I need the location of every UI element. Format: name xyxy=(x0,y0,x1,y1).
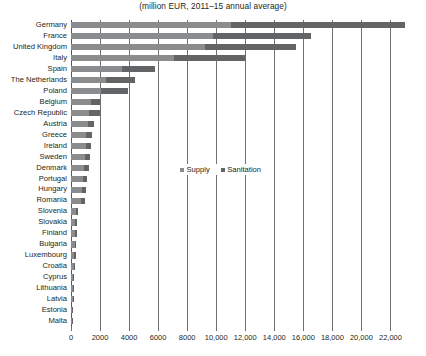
bar-segment-supply xyxy=(71,33,213,39)
bar-row xyxy=(71,20,405,31)
legend-item-sanitation[interactable]: Sanitation xyxy=(221,165,261,174)
bar-segment-sanitation xyxy=(213,33,310,39)
y-axis-category-labels: GermanyFranceUnited KingdomItalySpainThe… xyxy=(0,20,67,327)
bar-segment-sanitation xyxy=(73,285,74,291)
bar-segment-sanitation xyxy=(81,198,84,204)
bar-segment-sanitation xyxy=(82,187,86,193)
legend-label-sanitation: Sanitation xyxy=(227,165,261,174)
bar-segment-sanitation xyxy=(74,252,75,258)
bar-finland[interactable] xyxy=(71,230,77,236)
bar-belgium[interactable] xyxy=(71,99,100,105)
bar-germany[interactable] xyxy=(71,22,405,28)
bar-romania[interactable] xyxy=(71,198,85,204)
bar-row xyxy=(71,53,405,64)
bar-spain[interactable] xyxy=(71,66,155,72)
y-axis-label-ireland: Ireland xyxy=(0,141,67,152)
chart-legend: Supply Sanitation xyxy=(178,164,263,175)
bar-portugal[interactable] xyxy=(71,176,87,182)
bar-row xyxy=(71,130,405,141)
bar-row xyxy=(71,184,405,195)
bar-row xyxy=(71,283,405,294)
bar-segment-sanitation xyxy=(86,143,92,149)
bar-slovenia[interactable] xyxy=(71,208,78,214)
y-axis-label-france: France xyxy=(0,31,67,42)
bar-segment-supply xyxy=(71,198,81,204)
bar-latvia[interactable] xyxy=(71,296,73,302)
x-tick-label-20000: 20,000 xyxy=(350,333,373,342)
bar-row xyxy=(71,108,405,119)
x-tick-12000 xyxy=(245,327,246,331)
x-tick-18000 xyxy=(332,327,333,331)
y-axis-label-luxembourg: Luxembourg xyxy=(0,250,67,261)
bar-the-netherlands[interactable] xyxy=(71,77,135,83)
bar-segment-supply xyxy=(71,121,88,127)
bar-segment-sanitation xyxy=(73,296,74,302)
bar-row xyxy=(71,152,405,163)
bar-segment-sanitation xyxy=(75,241,77,247)
legend-swatch-supply-icon xyxy=(180,168,184,172)
x-tick-label-8000: 8000 xyxy=(179,333,196,342)
x-tick-14000 xyxy=(274,327,275,331)
y-axis-label-malta: Malta xyxy=(0,316,67,327)
bar-slovakia[interactable] xyxy=(71,219,77,225)
y-axis-label-greece: Greece xyxy=(0,130,67,141)
bar-malta[interactable] xyxy=(71,318,72,324)
x-tick-0 xyxy=(71,327,72,331)
bar-austria[interactable] xyxy=(71,121,94,127)
bar-france[interactable] xyxy=(71,33,311,39)
bar-row xyxy=(71,239,405,250)
x-tick-label-12000: 12,000 xyxy=(234,333,257,342)
y-axis-label-lithuania: Lithuania xyxy=(0,283,67,294)
bar-luxembourg[interactable] xyxy=(71,252,76,258)
y-axis-label-estonia: Estonia xyxy=(0,305,67,316)
y-axis-label-czech-republic: Czech Republic xyxy=(0,108,67,119)
legend-swatch-sanitation-icon xyxy=(221,168,225,172)
bar-italy[interactable] xyxy=(71,55,245,61)
bar-segment-sanitation xyxy=(101,88,127,94)
bar-row xyxy=(71,261,405,272)
bar-segment-supply xyxy=(71,88,101,94)
bar-row xyxy=(71,206,405,217)
bar-denmark[interactable] xyxy=(71,165,89,171)
x-tick-label-0: 0 xyxy=(69,333,73,342)
bar-sweden[interactable] xyxy=(71,154,90,160)
bar-segment-sanitation xyxy=(122,66,155,72)
x-tick-8000 xyxy=(187,327,188,331)
bar-row xyxy=(71,97,405,108)
x-tick-2000 xyxy=(100,327,101,331)
bar-hungary[interactable] xyxy=(71,187,86,193)
bar-segment-sanitation xyxy=(86,132,92,138)
y-axis-label-denmark: Denmark xyxy=(0,163,67,174)
bar-row xyxy=(71,75,405,86)
legend-label-supply: Supply xyxy=(187,165,210,174)
bar-estonia[interactable] xyxy=(71,307,73,313)
bar-segment-supply xyxy=(71,22,231,28)
bar-croatia[interactable] xyxy=(71,263,75,269)
bar-segment-sanitation xyxy=(73,274,74,280)
x-tick-6000 xyxy=(158,327,159,331)
bar-cyprus[interactable] xyxy=(71,274,74,280)
bar-segment-sanitation xyxy=(88,121,95,127)
bar-bulgaria[interactable] xyxy=(71,241,76,247)
y-axis-label-cyprus: Cyprus xyxy=(0,272,67,283)
bar-segment-supply xyxy=(71,187,82,193)
bar-ireland[interactable] xyxy=(71,143,91,149)
bar-united-kingdom[interactable] xyxy=(71,44,296,50)
bar-lithuania[interactable] xyxy=(71,285,74,291)
y-axis-label-poland: Poland xyxy=(0,86,67,97)
bar-segment-supply xyxy=(71,99,91,105)
bar-row xyxy=(71,86,405,97)
bar-czech-republic[interactable] xyxy=(71,110,100,116)
y-axis-label-croatia: Croatia xyxy=(0,261,67,272)
y-axis-label-hungary: Hungary xyxy=(0,184,67,195)
y-axis-label-slovakia: Slovakia xyxy=(0,217,67,228)
bar-segment-sanitation xyxy=(85,154,90,160)
y-axis-label-sweden: Sweden xyxy=(0,152,67,163)
bar-greece[interactable] xyxy=(71,132,92,138)
bar-poland[interactable] xyxy=(71,88,128,94)
x-tick-22000 xyxy=(390,327,391,331)
bar-row xyxy=(71,217,405,228)
legend-item-supply[interactable]: Supply xyxy=(180,165,210,174)
bar-row xyxy=(71,294,405,305)
bar-segment-sanitation xyxy=(106,77,135,83)
